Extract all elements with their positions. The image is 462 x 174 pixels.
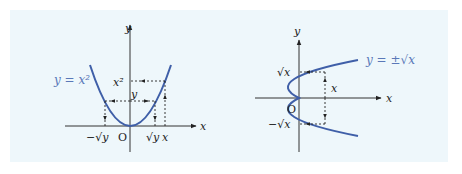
diagram-canvas: y = x² y x x² y −√y O √y x y = ±√x y x √… [0, 0, 462, 174]
left-graph: y = x² y x x² y −√y O √y x [53, 22, 207, 152]
level-sqrt-x-label: √x [277, 66, 291, 79]
sqrt-curve-label: y = ±√x [365, 53, 415, 67]
right-graph: y = ±√x y x √x O −√x x [255, 25, 415, 152]
level-neg-sqrt-x-label: −√x [268, 118, 291, 131]
tick-neg-sqrt-y: −√y [86, 131, 109, 144]
right-origin-label: O [287, 103, 296, 116]
right-x-axis-label: x [386, 92, 393, 105]
distance-x-label: x [331, 82, 338, 95]
left-y-axis-label: y [124, 22, 132, 35]
level-y-label: y [130, 88, 138, 101]
tick-x: x [162, 131, 169, 144]
left-x-axis-label: x [200, 120, 207, 133]
level-x2-label: x² [113, 76, 124, 89]
parabola-label: y = x² [53, 73, 90, 87]
left-origin-label: O [118, 131, 127, 144]
tick-sqrt-y: √y [146, 131, 160, 144]
right-y-axis-label: y [293, 25, 301, 38]
